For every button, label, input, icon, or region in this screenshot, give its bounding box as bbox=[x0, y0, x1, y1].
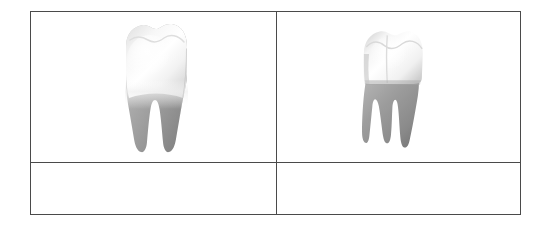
page-root bbox=[0, 0, 546, 225]
table-cell-image-left[interactable] bbox=[31, 12, 277, 163]
molar-tooth-frontal-view-icon bbox=[115, 20, 195, 157]
table-cell-caption-right[interactable] bbox=[277, 163, 521, 215]
table-row-captions bbox=[31, 163, 521, 215]
cusp-ridge-line bbox=[387, 35, 388, 83]
table-row-images bbox=[31, 12, 521, 163]
caption-right-text bbox=[277, 163, 520, 214]
tooth-roots-shape bbox=[362, 81, 419, 147]
crown-root-boundary bbox=[365, 80, 421, 85]
image-cell-left-inner bbox=[31, 12, 276, 162]
molar-tooth-angled-view-icon bbox=[353, 26, 429, 154]
table-cell-image-right[interactable] bbox=[277, 12, 521, 163]
crown-root-blend bbox=[125, 80, 188, 109]
figure-table bbox=[30, 11, 521, 215]
crown-highlight bbox=[127, 35, 173, 83]
table-cell-caption-left[interactable] bbox=[31, 163, 277, 215]
image-cell-right-inner bbox=[277, 12, 520, 162]
caption-left-text bbox=[31, 163, 276, 214]
